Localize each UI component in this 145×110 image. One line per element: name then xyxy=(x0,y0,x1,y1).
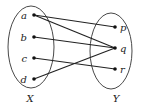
element-p-dot xyxy=(113,25,117,29)
element-a-label: a xyxy=(21,10,27,21)
mapping-a-to-p xyxy=(34,15,115,27)
element-r-dot xyxy=(113,67,117,71)
element-b-label: b xyxy=(21,32,27,43)
set-x-ellipse xyxy=(8,6,54,88)
element-c-label: c xyxy=(21,53,27,64)
element-b-dot xyxy=(32,35,36,39)
set-y-label: Y xyxy=(113,93,121,104)
element-a-dot xyxy=(32,13,36,17)
element-c-dot xyxy=(32,56,36,60)
element-p-label: p xyxy=(120,22,127,33)
element-q-dot xyxy=(113,46,117,50)
mapping-d-to-q xyxy=(34,48,115,79)
mapping-arrows xyxy=(34,15,115,79)
set-x-label: X xyxy=(25,93,34,104)
element-d-dot xyxy=(32,77,36,81)
element-r-label: r xyxy=(120,64,126,75)
element-d-label: d xyxy=(21,74,27,85)
element-q-label: q xyxy=(120,43,126,54)
mapping-diagram: abcdpqr X Y xyxy=(0,0,145,110)
